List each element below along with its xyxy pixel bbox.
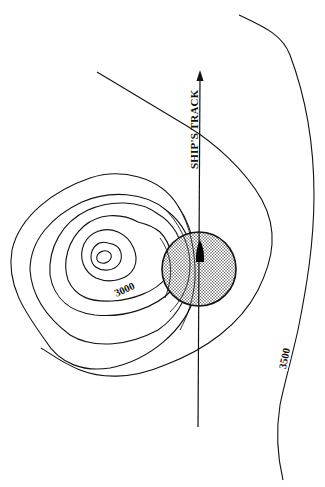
contour-peak — [95, 249, 113, 265]
contour-3500 — [239, 15, 314, 480]
track-arrowhead-icon — [197, 70, 204, 81]
contour-lines — [11, 15, 314, 480]
contour-map — [0, 0, 325, 487]
ships-track-label: SHIP'S TRACK — [188, 97, 200, 169]
contour-ring-6 — [91, 242, 121, 270]
contour-ring-5 — [82, 230, 136, 281]
diagram: SHIP'S TRACK 3000 3500 — [0, 0, 325, 487]
